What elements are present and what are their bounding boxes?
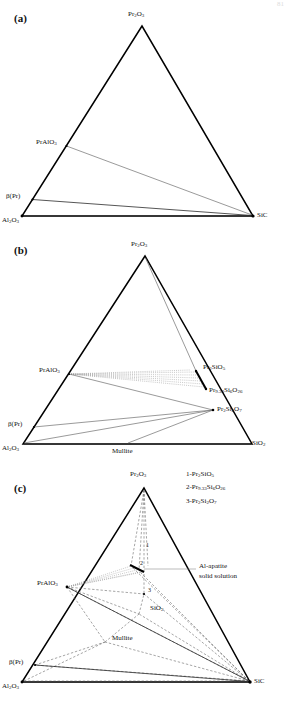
tie-line-pralo3-sic-c [67, 587, 249, 681]
vertex-label-pr2o3-b: Pr2O3 [131, 240, 147, 249]
point-label-pr2si2o7-b: Pr2Si2O7 [217, 405, 242, 414]
marker-2-c: 2 [140, 560, 143, 567]
point-label-apatite-b: Pr9.33Si6O26 [209, 386, 242, 395]
figure-page: 81 (a) Pr2O3 PrAlO3 β(Pr) Al2O3 SiC [0, 0, 286, 705]
dotted-tielines-c [67, 566, 143, 587]
point-label-mullite-c: Mullite [112, 634, 133, 642]
panel-a-diagram [0, 0, 286, 232]
tie-line-mullite-pr2si2o7-b [128, 410, 213, 443]
point-sic-c [248, 680, 251, 683]
point-betapr-b [33, 426, 35, 428]
point-pr2sio5-b [195, 370, 197, 372]
point-phase3-c [143, 593, 145, 595]
point-label-pralo3-a: PrAlO3 [36, 138, 57, 147]
point-al2o3-a [21, 215, 24, 218]
vertex-label-al2o3-a: Al2O3 [2, 216, 19, 225]
point-label-mullite-b: Mullite [112, 447, 133, 455]
point-label-pralo3-b: PrAlO3 [39, 366, 60, 375]
point-al2o3-c [21, 681, 24, 684]
panel-label-b: (b) [14, 244, 27, 256]
point-label-betapr-a: β(Pr) [6, 192, 20, 200]
ternary-triangle-a [22, 26, 253, 216]
point-pralo3-a [65, 145, 67, 147]
point-pralo3-c [66, 586, 69, 589]
panel-a: (a) Pr2O3 PrAlO3 β(Pr) Al2O3 SiC [0, 0, 286, 232]
point-label-sio2-c: SiO2 [150, 604, 163, 613]
tie-line-betapr-sic-a [33, 200, 253, 216]
panel-b-diagram [0, 232, 286, 462]
legend-item-3: 3-Pr2Si2O7 [186, 495, 225, 508]
point-label-pralo3-c: PrAlO3 [37, 579, 58, 588]
vertex-label-sic-c: SiC [254, 677, 265, 685]
ternary-triangle-b [23, 256, 252, 444]
vertex-label-al2o3-c: Al2O3 [2, 682, 19, 691]
point-sic-a [251, 214, 254, 217]
tie-line-al2o3-pr2si2o7-b [24, 410, 213, 443]
annotation-line2-c: solid solution [199, 572, 237, 580]
panel-b: (b) Pr2O3 PrAlO3 β(Pr) Al2O3 SiO2 Mullit… [0, 232, 286, 462]
legend-c: 1-Pr2SiO5 2-Pr9.33Si6O26 3-Pr2Si2O7 [186, 468, 225, 508]
vertex-label-sic-a: SiC [257, 211, 268, 219]
point-pr2si2o7-b [212, 409, 215, 412]
vertex-label-pr2o3-a: Pr2O3 [128, 10, 144, 19]
marker-3-c: 3 [148, 587, 151, 594]
tie-line-pralo3-sic-a [67, 146, 253, 215]
point-label-betapr-c: β(Pr) [9, 658, 23, 666]
point-label-betapr-b: β(Pr) [8, 420, 22, 428]
panel-label-a: (a) [14, 12, 27, 24]
panel-c: (c) Pr2O3 PrAlO3 β(Pr) Al2O3 SiC SiO2 Mu… [0, 462, 286, 705]
legend-item-2: 2-Pr9.33Si6O26 [186, 481, 225, 494]
panel-label-c: (c) [14, 482, 26, 494]
tie-line-pr2o3-pr2sio5-b [146, 258, 197, 371]
dotted-tielines-b [69, 370, 204, 387]
tie-line-betapr-pr2si2o7-b [34, 410, 213, 427]
marker-1-c: 1 [146, 542, 149, 549]
point-apatite-b [205, 388, 207, 390]
legend-item-1: 1-Pr2SiO5 [186, 468, 225, 481]
annotation-line1-c: Al-apatite [199, 562, 227, 570]
vertex-label-pr2o3-c: Pr2O3 [130, 470, 146, 479]
vertex-label-sio2-b: SiO2 [252, 439, 265, 448]
point-betapr-c [34, 664, 36, 666]
vertex-label-al2o3-b: Al2O3 [2, 444, 19, 453]
point-betapr-a [31, 198, 33, 200]
point-label-pr2sio5-b: Pr2SiO5 [203, 363, 225, 372]
tie-line-betapr-sic-c [35, 665, 249, 682]
point-pralo3-b [68, 373, 70, 375]
